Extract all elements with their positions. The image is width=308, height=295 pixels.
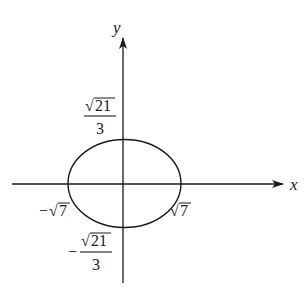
radical-sign: √: [49, 202, 58, 219]
x-axis-label: x: [289, 175, 298, 194]
radical-sign: √: [170, 202, 179, 219]
radicand: 7: [59, 202, 67, 219]
radical-sign: √: [81, 232, 90, 249]
denominator: 3: [96, 120, 104, 137]
minus-sign: −: [39, 202, 48, 219]
radicand: 21: [95, 97, 111, 114]
denominator: 3: [92, 256, 100, 273]
x-positive-intercept-label: √ 7: [170, 202, 191, 219]
radicand: 21: [91, 232, 107, 249]
y-axis-label: y: [111, 18, 121, 37]
minus-sign: −: [68, 243, 77, 260]
x-negative-intercept-label: − √ 7: [39, 202, 70, 219]
y-negative-intercept-label: − √ 21 3: [68, 232, 112, 273]
y-positive-intercept-label: √ 21 3: [84, 97, 116, 137]
ellipse-diagram: y x √ 21 3 − √ 7 √ 7 − √ 21 3: [0, 0, 308, 295]
radical-sign: √: [85, 97, 94, 114]
radicand: 7: [180, 202, 188, 219]
